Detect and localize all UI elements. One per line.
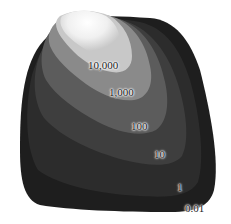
contour-label-10: 10 xyxy=(154,149,165,160)
contour-label-100: 100 xyxy=(131,121,148,132)
contour-label-0.01: 0.01 xyxy=(185,203,204,214)
contour-plot xyxy=(0,0,231,224)
contour-label-10000: 10,000 xyxy=(88,60,118,71)
contour-label-1000: 1,000 xyxy=(109,87,134,98)
contour-label-1: 1 xyxy=(177,182,183,193)
